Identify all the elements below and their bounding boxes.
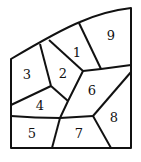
region-label-7: 7: [75, 126, 83, 141]
region-label-2: 2: [59, 66, 67, 81]
edge-1-9: [79, 23, 101, 69]
region-label-8: 8: [110, 110, 118, 125]
region-label-5: 5: [28, 126, 36, 141]
region-label-4: 4: [36, 98, 44, 113]
region-label-9: 9: [107, 28, 115, 43]
edge-2-4: [51, 86, 68, 101]
region-map-diagram: 1 2 3 4 5 6 7 8 9: [0, 0, 141, 162]
region-label-3: 3: [23, 67, 31, 82]
edge-7-8: [93, 116, 111, 148]
edge-1-6: [83, 65, 131, 71]
region-label-1: 1: [73, 45, 81, 60]
edge-3-2: [40, 44, 51, 86]
region-label-6: 6: [88, 83, 96, 98]
edge-3-4: [11, 86, 51, 105]
edge-5-7: [52, 118, 60, 148]
edge-4-5: [11, 116, 93, 118]
